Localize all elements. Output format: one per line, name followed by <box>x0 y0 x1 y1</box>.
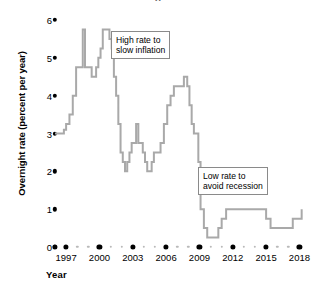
annotation-low-rate: Low rate to avoid recession <box>198 167 268 195</box>
overnight-rate-line <box>55 29 302 237</box>
annotation-high-rate: High rate to slow inflation <box>111 31 170 59</box>
chart-container: g Overnight rate (percent per year) 0123… <box>0 0 313 290</box>
x-axis-title: Year <box>46 269 67 280</box>
